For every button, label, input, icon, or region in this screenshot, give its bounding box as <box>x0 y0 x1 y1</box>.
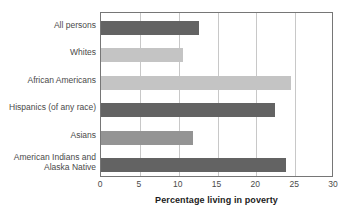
x-tick-label: 0 <box>98 179 103 189</box>
x-tick-label: 15 <box>212 179 221 189</box>
plot-area <box>100 12 333 177</box>
x-tick-label: 25 <box>289 179 298 189</box>
category-label: African Americans <box>0 75 96 85</box>
x-axis-tick-labels: 051015202530 <box>100 179 333 191</box>
x-axis-title: Percentage living in poverty <box>100 195 333 205</box>
bar <box>101 48 183 62</box>
chart-screenshot: All personsWhitesAfrican AmericansHispan… <box>0 0 349 214</box>
bar <box>101 21 199 35</box>
bar <box>101 158 286 172</box>
category-label: Asians <box>0 130 96 140</box>
bar <box>101 103 275 117</box>
category-label: Hispanics (of any race) <box>0 102 96 112</box>
category-label: All persons <box>0 20 96 30</box>
x-tick-label: 30 <box>328 179 337 189</box>
category-label: American Indians and Alaska Native <box>0 152 96 172</box>
x-tick-label: 20 <box>251 179 260 189</box>
category-label: Whites <box>0 47 96 57</box>
bar <box>101 76 291 90</box>
x-tick-label: 10 <box>173 179 182 189</box>
x-tick-label: 5 <box>136 179 141 189</box>
bar <box>101 131 193 145</box>
bar-series <box>101 13 332 176</box>
category-axis-labels: All personsWhitesAfrican AmericansHispan… <box>0 12 96 177</box>
